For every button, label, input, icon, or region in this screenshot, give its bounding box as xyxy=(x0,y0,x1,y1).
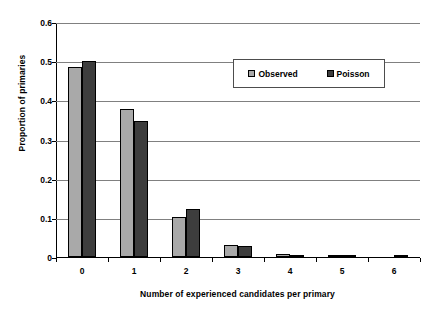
chart-figure: Proportion of primaries Number of experi… xyxy=(0,0,433,316)
legend-swatch-poisson-icon xyxy=(327,70,334,77)
y-tick-label: 0.2 xyxy=(22,175,52,185)
y-tick-label: 0.4 xyxy=(22,96,52,106)
x-tick-mark xyxy=(212,258,213,262)
x-tick-mark xyxy=(264,258,265,262)
x-tick-label: 0 xyxy=(67,266,97,276)
x-tick-label: 6 xyxy=(379,266,409,276)
gridline xyxy=(56,219,420,220)
gridline xyxy=(56,101,420,102)
x-axis-line xyxy=(56,257,420,258)
x-tick-mark xyxy=(368,258,369,262)
legend-label-poisson: Poisson xyxy=(337,69,370,79)
bar-observed-5 xyxy=(328,255,342,257)
gridline xyxy=(56,180,420,181)
y-tick-label: 0.3 xyxy=(22,136,52,146)
legend-item-observed: Observed xyxy=(248,69,297,79)
bar-poisson-6 xyxy=(394,255,408,257)
bar-observed-2 xyxy=(172,217,186,257)
bar-poisson-3 xyxy=(238,246,252,257)
x-tick-mark xyxy=(420,258,421,262)
y-tick-mark xyxy=(52,23,56,24)
bar-poisson-4 xyxy=(290,255,304,257)
x-tick-label: 5 xyxy=(327,266,357,276)
gridline xyxy=(56,141,420,142)
x-tick-label: 2 xyxy=(171,266,201,276)
x-tick-label: 4 xyxy=(275,266,305,276)
x-tick-mark xyxy=(56,258,57,262)
y-tick-mark xyxy=(52,141,56,142)
legend-swatch-observed-icon xyxy=(248,70,255,77)
bar-poisson-5 xyxy=(342,255,356,257)
x-tick-mark xyxy=(108,258,109,262)
x-tick-label: 3 xyxy=(223,266,253,276)
gridline xyxy=(56,23,420,24)
chart-legend: Observed Poisson xyxy=(233,59,385,88)
bar-poisson-2 xyxy=(186,209,200,257)
y-tick-label: 0 xyxy=(22,253,52,263)
bar-observed-1 xyxy=(120,109,134,257)
y-tick-mark xyxy=(52,62,56,63)
x-tick-mark xyxy=(316,258,317,262)
bar-poisson-1 xyxy=(134,121,148,257)
x-axis-title: Number of experienced candidates per pri… xyxy=(55,289,420,299)
y-tick-mark xyxy=(52,180,56,181)
y-tick-label: 0.5 xyxy=(22,57,52,67)
x-tick-mark xyxy=(160,258,161,262)
y-tick-label: 0.1 xyxy=(22,214,52,224)
bar-observed-4 xyxy=(276,254,290,257)
legend-item-poisson: Poisson xyxy=(327,69,370,79)
y-tick-label: 0.6 xyxy=(22,18,52,28)
x-tick-label: 1 xyxy=(119,266,149,276)
y-tick-mark xyxy=(52,101,56,102)
y-tick-mark xyxy=(52,219,56,220)
legend-label-observed: Observed xyxy=(258,69,297,79)
bar-observed-3 xyxy=(224,245,238,257)
bar-poisson-0 xyxy=(82,61,96,257)
bar-observed-0 xyxy=(68,67,82,257)
